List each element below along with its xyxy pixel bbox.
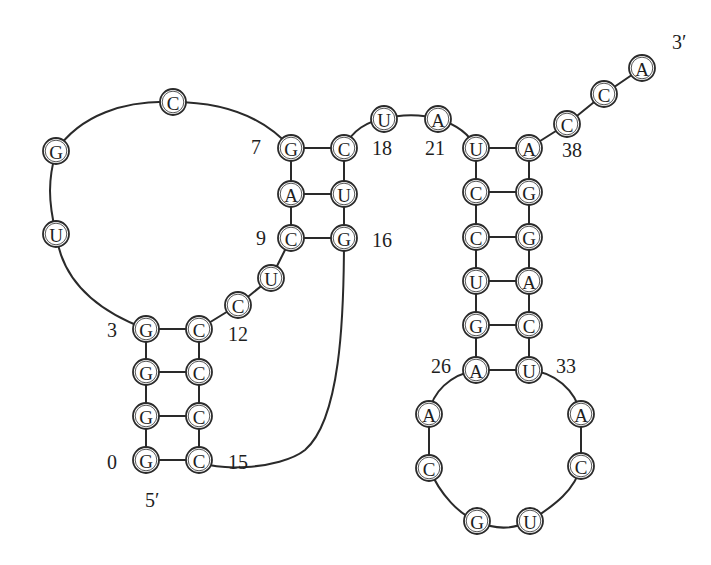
nucleotide-base-letter: A bbox=[431, 110, 445, 131]
index-label: 33 bbox=[556, 355, 576, 377]
nucleotide-base-letter: G bbox=[139, 451, 153, 472]
nucleotide-28: C bbox=[416, 455, 442, 481]
nucleotide-base-letter: U bbox=[264, 269, 278, 290]
nucleotide-base-letter: A bbox=[635, 59, 649, 80]
nucleotide-layer: GGGGUGCGACUCCCCCGUCUAUCCUGAACGUCAUCAGGAC… bbox=[43, 55, 655, 534]
index-label: 3 bbox=[107, 319, 117, 341]
nucleotide-23: C bbox=[463, 224, 489, 250]
nucleotide-27: A bbox=[416, 401, 442, 427]
nucleotide-15: C bbox=[186, 447, 212, 473]
nucleotide-base-letter: C bbox=[470, 183, 483, 204]
nucleotide-base-letter: U bbox=[469, 272, 483, 293]
index-label: 7 bbox=[251, 136, 261, 158]
nucleotide-base-letter: G bbox=[284, 139, 298, 160]
nucleotide-38: A bbox=[516, 135, 542, 161]
nucleotide-6: C bbox=[160, 89, 186, 115]
nucleotide-base-letter: U bbox=[377, 110, 391, 131]
nucleotide-19: U bbox=[371, 106, 397, 132]
nucleotide-36: G bbox=[516, 224, 542, 250]
nucleotide-4: U bbox=[43, 221, 69, 247]
nucleotide-base-letter: C bbox=[470, 228, 483, 249]
nucleotide-16: G bbox=[331, 225, 357, 251]
nucleotide-32: A bbox=[568, 401, 594, 427]
nucleotide-base-letter: U bbox=[522, 361, 536, 382]
nucleotide-5: G bbox=[43, 138, 69, 164]
nucleotide-12: C bbox=[186, 316, 212, 342]
index-label: 38 bbox=[562, 139, 582, 161]
nucleotide-1: G bbox=[133, 403, 159, 429]
rna-secondary-structure-diagram: GGGGUGCGACUCCCCCGUCUAUCCUGAACGUCAUCAGGAC… bbox=[0, 0, 711, 565]
nucleotide-26: A bbox=[463, 357, 489, 383]
nucleotide-base-letter: C bbox=[193, 363, 206, 384]
nucleotide-base-letter: A bbox=[522, 139, 536, 160]
nucleotide-base-letter: U bbox=[49, 225, 63, 246]
nucleotide-base-letter: C bbox=[575, 457, 588, 478]
nucleotide-base-letter: A bbox=[574, 405, 588, 426]
nucleotide-base-letter: C bbox=[232, 296, 245, 317]
nucleotide-base-letter: G bbox=[470, 512, 484, 533]
nucleotide-7: G bbox=[278, 135, 304, 161]
nucleotide-14: C bbox=[186, 403, 212, 429]
index-label: 12 bbox=[228, 323, 248, 345]
nucleotide-base-letter: U bbox=[523, 512, 537, 533]
index-label: 9 bbox=[256, 227, 266, 249]
nucleotide-20: A bbox=[425, 106, 451, 132]
nucleotide-base-letter: G bbox=[139, 363, 153, 384]
nucleotide-base-letter: A bbox=[469, 361, 483, 382]
nucleotide-10: U bbox=[258, 265, 284, 291]
nucleotide-2: G bbox=[133, 359, 159, 385]
nucleotide-base-letter: C bbox=[167, 93, 180, 114]
nucleotide-29: G bbox=[464, 508, 490, 534]
nucleotide-base-letter: C bbox=[193, 451, 206, 472]
diagram-svg: GGGGUGCGACUCCCCCGUCUAUCCUGAACGUCAUCAGGAC… bbox=[0, 0, 711, 565]
nucleotide-base-letter: C bbox=[338, 139, 351, 160]
nucleotide-35: A bbox=[516, 268, 542, 294]
nucleotide-18: C bbox=[331, 135, 357, 161]
index-label: 21 bbox=[425, 137, 445, 159]
backbone-segment-26-33 bbox=[429, 370, 581, 528]
nucleotide-base-letter: G bbox=[469, 316, 483, 337]
backbone-segment-18-21 bbox=[344, 115, 476, 148]
nucleotide-base-letter: G bbox=[337, 229, 351, 250]
nucleotide-34: C bbox=[516, 312, 542, 338]
nucleotide-base-letter: C bbox=[598, 85, 611, 106]
nucleotide-9: C bbox=[278, 225, 304, 251]
nucleotide-33: U bbox=[516, 357, 542, 383]
nucleotide-base-letter: G bbox=[522, 228, 536, 249]
nucleotide-22: C bbox=[463, 179, 489, 205]
nucleotide-base-letter: C bbox=[423, 459, 436, 480]
nucleotide-30: U bbox=[517, 508, 543, 534]
nucleotide-13: C bbox=[186, 359, 212, 385]
index-label: 26 bbox=[431, 355, 451, 377]
nucleotide-31: C bbox=[568, 453, 594, 479]
index-label: 18 bbox=[372, 137, 392, 159]
nucleotide-base-letter: A bbox=[284, 185, 298, 206]
nucleotide-base-letter: C bbox=[561, 115, 574, 136]
nucleotide-base-letter: G bbox=[49, 142, 63, 163]
five-prime-label: 5′ bbox=[145, 489, 159, 511]
nucleotide-base-letter: G bbox=[139, 320, 153, 341]
index-label: 16 bbox=[372, 229, 392, 251]
nucleotide-0: G bbox=[133, 447, 159, 473]
nucleotide-base-letter: C bbox=[523, 316, 536, 337]
nucleotide-base-letter: C bbox=[285, 229, 298, 250]
nucleotide-base-letter: C bbox=[193, 320, 206, 341]
index-label: 0 bbox=[107, 451, 117, 473]
nucleotide-40: C bbox=[591, 81, 617, 107]
nucleotide-base-letter: U bbox=[337, 185, 351, 206]
nucleotide-37: G bbox=[516, 179, 542, 205]
nucleotide-base-letter: G bbox=[139, 407, 153, 428]
nucleotide-base-letter: C bbox=[193, 407, 206, 428]
nucleotide-21: U bbox=[463, 135, 489, 161]
nucleotide-11: C bbox=[225, 292, 251, 318]
nucleotide-17: U bbox=[331, 181, 357, 207]
nucleotide-base-letter: A bbox=[422, 405, 436, 426]
three-prime-label: 3′ bbox=[672, 31, 686, 53]
nucleotide-base-letter: A bbox=[522, 272, 536, 293]
nucleotide-3: G bbox=[133, 316, 159, 342]
nucleotide-base-letter: U bbox=[469, 139, 483, 160]
nucleotide-8: A bbox=[278, 181, 304, 207]
nucleotide-41: A bbox=[629, 55, 655, 81]
nucleotide-25: G bbox=[463, 312, 489, 338]
nucleotide-base-letter: G bbox=[522, 183, 536, 204]
